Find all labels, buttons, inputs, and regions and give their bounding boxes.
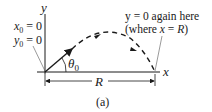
figure-caption: (a) [96, 95, 109, 109]
y-axis-label: y [39, 0, 47, 15]
trajectory-arrow-icon [130, 47, 137, 51]
y0-label: y0 = 0 [13, 33, 42, 49]
annotation-line-2: (where x = R) [125, 23, 188, 36]
trajectory-path [72, 32, 155, 72]
origin-leader-line [33, 46, 45, 71]
range-label: R [94, 74, 103, 89]
projectile-diagram: y x x0 = 0 y0 = 0 θ0 R y = 0 again here … [0, 0, 212, 112]
angle-arc [62, 58, 66, 72]
x-axis-label: x [162, 64, 169, 79]
annotation-line-1: y = 0 again here [125, 10, 199, 23]
angle-label: θ0 [68, 56, 79, 73]
landing-leader-line [155, 36, 162, 71]
